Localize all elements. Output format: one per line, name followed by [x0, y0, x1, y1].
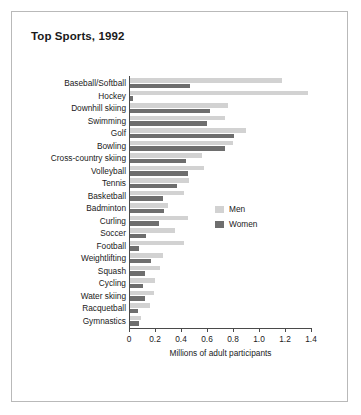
bar-men: [129, 128, 246, 133]
chart-row: Football: [129, 240, 311, 253]
chart-row: Basketball: [129, 190, 311, 203]
chart-legend: MenWomen: [215, 203, 257, 233]
bar-women: [129, 221, 159, 226]
bar-women: [129, 284, 143, 289]
category-label: Squash: [98, 267, 126, 275]
chart-title: Top Sports, 1992: [31, 30, 124, 42]
category-label: Cross-country skiing: [51, 154, 126, 162]
chart-row: Downhill skiing: [129, 102, 311, 115]
x-tick-label: 0.8: [227, 334, 239, 344]
x-tick-label: 1.2: [279, 334, 291, 344]
legend-label: Men: [229, 204, 245, 214]
x-tick: [129, 329, 130, 332]
chart-row: Weightlifting: [129, 252, 311, 265]
chart-row: Hockey: [129, 90, 311, 103]
category-label: Soccer: [100, 229, 126, 237]
legend-label: Women: [229, 219, 257, 229]
bar-men: [129, 191, 184, 196]
chart-row: Swimming: [129, 115, 311, 128]
chart-row: Cross-country skiing: [129, 152, 311, 165]
category-label: Golf: [111, 129, 126, 137]
bar-women: [129, 321, 139, 326]
chart-row: Cycling: [129, 277, 311, 290]
bar-women: [129, 209, 164, 214]
legend-swatch-men: [215, 206, 224, 213]
plot-area: Baseball/SoftballHockeyDownhill skiingSw…: [129, 77, 311, 327]
bar-men: [129, 291, 154, 296]
bar-men: [129, 316, 141, 321]
category-label: Water skiing: [81, 292, 126, 300]
category-label: Cycling: [99, 279, 126, 287]
y-axis-line: [129, 76, 130, 328]
category-label: Hockey: [98, 92, 126, 100]
bar-women: [129, 134, 234, 139]
category-label: Baseball/Softball: [64, 79, 126, 87]
bar-men: [129, 278, 155, 283]
x-axis-title: Millions of adult participants: [129, 348, 312, 358]
chart-row: Racquetball: [129, 302, 311, 315]
bar-men: [129, 153, 202, 158]
category-label: Bowling: [97, 142, 126, 150]
bar-men: [129, 78, 282, 83]
bar-men: [129, 253, 163, 258]
legend-item-men: Men: [215, 203, 257, 215]
bar-men: [129, 203, 168, 208]
category-label: Racquetball: [82, 304, 126, 312]
chart-row: Volleyball: [129, 165, 311, 178]
category-label: Weightlifting: [81, 254, 126, 262]
x-tick-label: 0.4: [175, 334, 187, 344]
bar-men: [129, 303, 150, 308]
bar-men: [129, 178, 189, 183]
bar-women: [129, 259, 151, 264]
bar-women: [129, 159, 186, 164]
x-tick: [259, 329, 260, 332]
x-tick: [181, 329, 182, 332]
bar-women: [129, 296, 145, 301]
bar-women: [129, 121, 207, 126]
legend-swatch-women: [215, 221, 224, 228]
x-tick: [285, 329, 286, 332]
chart-row: Bowling: [129, 140, 311, 153]
bar-women: [129, 109, 210, 114]
bar-women: [129, 84, 190, 89]
bar-men: [129, 103, 228, 108]
bar-men: [129, 141, 233, 146]
x-tick-label: 0.6: [201, 334, 213, 344]
bar-men: [129, 166, 204, 171]
chart-row: Water skiing: [129, 290, 311, 303]
chart-row: Gymnastics: [129, 315, 311, 328]
bar-women: [129, 234, 146, 239]
bar-women: [129, 271, 145, 276]
bar-women: [129, 196, 163, 201]
category-label: Swimming: [88, 117, 126, 125]
chart-row: Golf: [129, 127, 311, 140]
category-label: Curling: [100, 217, 126, 225]
bar-men: [129, 91, 308, 96]
category-label: Gymnastics: [83, 317, 126, 325]
category-label: Tennis: [102, 179, 126, 187]
x-tick: [311, 329, 312, 332]
x-tick-label: 0: [127, 334, 132, 344]
chart-row: Baseball/Softball: [129, 77, 311, 90]
bar-men: [129, 241, 184, 246]
bar-women: [129, 184, 177, 189]
bar-men: [129, 216, 188, 221]
category-label: Badminton: [86, 204, 126, 212]
x-tick-label: 1.4: [305, 334, 317, 344]
bar-men: [129, 266, 160, 271]
x-tick-label: 1.0: [253, 334, 265, 344]
bar-women: [129, 309, 138, 314]
bar-women: [129, 171, 188, 176]
x-tick: [233, 329, 234, 332]
chart-row: Squash: [129, 265, 311, 278]
x-tick: [155, 329, 156, 332]
bar-men: [129, 228, 175, 233]
category-label: Downhill skiing: [71, 104, 126, 112]
category-label: Volleyball: [91, 167, 126, 175]
chart-frame: Top Sports, 1992 Baseball/SoftballHockey…: [11, 11, 348, 402]
x-tick-label: 0.2: [149, 334, 161, 344]
chart-row: Tennis: [129, 177, 311, 190]
bar-women: [129, 146, 225, 151]
category-label: Basketball: [88, 192, 126, 200]
bar-men: [129, 116, 225, 121]
